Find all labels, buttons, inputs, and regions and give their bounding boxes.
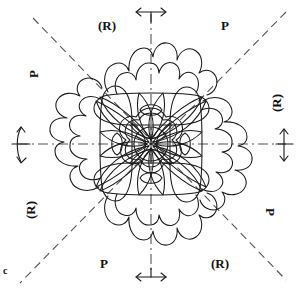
arrow-left-icon <box>12 127 30 163</box>
figure-caption-letter: c <box>3 265 7 276</box>
label-right-lower-P: P <box>262 208 278 216</box>
label-bottom-right-R: (R) <box>211 256 229 272</box>
diagonal-mirror-ne-sw <box>20 12 286 283</box>
label-left-lower-R: (R) <box>23 201 39 219</box>
arrow-top-icon <box>136 8 166 22</box>
label-bottom-left-P: P <box>100 256 108 272</box>
rosette-svg <box>0 0 303 288</box>
diagonal-mirror-lines <box>20 12 286 283</box>
arrow-right-icon <box>276 129 293 161</box>
label-left-upper-P: P <box>26 70 42 78</box>
label-top-left-R: (R) <box>98 18 116 34</box>
symmetry-diagram-figure: (R) P P (R) (R) P P (R) c <box>0 0 303 288</box>
label-right-upper-R: (R) <box>269 94 285 112</box>
arrow-bottom-icon <box>136 268 166 281</box>
label-top-right-P: P <box>221 18 229 34</box>
